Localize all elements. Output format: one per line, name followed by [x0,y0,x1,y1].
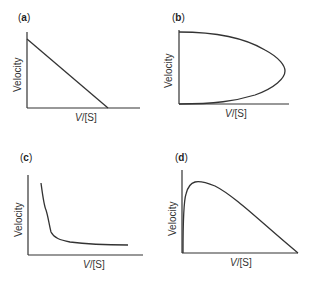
y-axis-label-d: Velocity [167,202,178,236]
x-italic: V [83,259,90,270]
x-rest: /[S] [232,108,247,119]
x-axis-label-c: V/[S] [83,259,105,270]
x-rest: /[S] [237,257,252,268]
x-rest: /[S] [82,112,97,123]
x-axis-label-b: V/[S] [225,108,247,119]
panel-c: (c) Velocity V/[S] [0,140,155,281]
plot-b [155,0,310,140]
x-axis-label-d: V/[S] [230,257,252,268]
y-axis-label-a: Velocity [12,58,23,92]
x-rest: /[S] [90,259,105,270]
y-axis-label-c: Velocity [13,203,24,237]
y-axis-label-b: Velocity [163,54,174,88]
panel-d: (d) Velocity V/[S] [155,140,310,281]
x-axis-label-a: V/[S] [75,112,97,123]
x-italic: V [75,112,82,123]
panel-b: (b) Velocity V/[S] [155,0,310,140]
x-italic: V [225,108,232,119]
panel-a: (a) Velocity V/[S] [0,0,155,140]
x-italic: V [230,257,237,268]
